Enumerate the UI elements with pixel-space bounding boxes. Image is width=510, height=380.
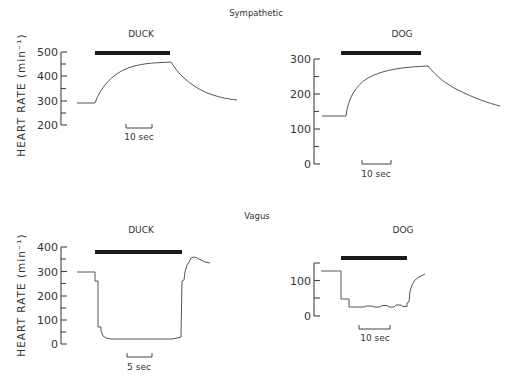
heart-rate-trace <box>77 62 237 103</box>
y-tick-label: 0 <box>51 338 58 351</box>
y-tick-label: 200 <box>37 119 58 132</box>
time-scale-label: 10 sec <box>360 333 390 343</box>
y-tick-label: 100 <box>290 275 311 288</box>
panel-dog-sympathetic: DOG 300 200 100 0 10 sec <box>290 29 500 179</box>
panel-title: DUCK <box>128 225 155 235</box>
panel-title: DOG <box>393 225 414 235</box>
y-tick-label: 400 <box>37 70 58 83</box>
time-scale-bar <box>362 160 391 164</box>
heart-rate-trace <box>322 66 500 116</box>
y-tick-label: 400 <box>37 241 58 254</box>
heart-rate-trace <box>77 257 210 339</box>
y-axis <box>314 263 320 316</box>
y-tick-label: 300 <box>290 53 311 66</box>
stimulus-bar <box>95 250 182 254</box>
section-title-sympathetic: Sympathetic <box>229 8 283 18</box>
time-scale-label: 10 sec <box>124 132 154 142</box>
y-tick-label: 0 <box>304 158 311 171</box>
y-axis <box>61 247 67 344</box>
y-tick-label: 100 <box>290 123 311 136</box>
y-tick-label: 200 <box>290 88 311 101</box>
stimulus-bar <box>341 256 407 260</box>
time-scale-bar <box>359 325 390 329</box>
stimulus-bar <box>341 51 421 55</box>
y-tick-label: 300 <box>37 266 58 279</box>
time-scale-bar <box>127 353 152 357</box>
y-tick-label: 0 <box>304 310 311 323</box>
y-tick-label: 300 <box>37 95 58 108</box>
panel-duck-vagus: DUCK HEART RATE (min⁻¹) 400 300 200 100 … <box>15 225 210 372</box>
panel-title: DUCK <box>128 29 155 39</box>
time-scale-label: 10 sec <box>361 169 391 179</box>
time-scale-bar <box>126 124 152 128</box>
y-tick-label: 500 <box>37 46 58 59</box>
panel-title: DOG <box>392 29 413 39</box>
y-axis-label: HEART RATE (min⁻¹) <box>15 33 27 156</box>
y-axis <box>314 59 320 164</box>
y-tick-label: 100 <box>37 314 58 327</box>
panel-duck-sympathetic: DUCK HEART RATE (min⁻¹) 500 400 300 200 … <box>15 29 237 157</box>
y-tick-label: 200 <box>37 290 58 303</box>
figure: Sympathetic Vagus DUCK HEART RATE (min⁻¹… <box>0 0 510 380</box>
stimulus-bar <box>95 51 170 55</box>
section-title-vagus: Vagus <box>244 211 270 221</box>
time-scale-label: 5 sec <box>127 362 151 372</box>
y-axis-label: HEART RATE (min⁻¹) <box>15 233 27 356</box>
panel-dog-vagus: DOG 100 0 10 sec <box>290 225 425 343</box>
y-axis <box>61 52 67 125</box>
heart-rate-trace <box>321 271 425 307</box>
